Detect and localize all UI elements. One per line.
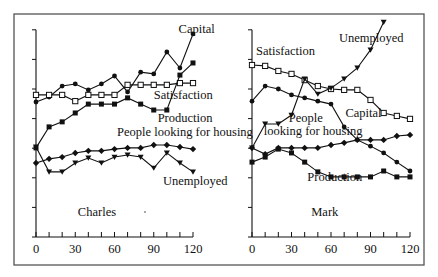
filled-diamond-marker xyxy=(33,160,39,166)
filled-circle-marker xyxy=(99,82,104,87)
filled-triangle-down-marker xyxy=(98,161,104,166)
filled-diamond-marker xyxy=(111,146,117,152)
x-tick-label: 120 xyxy=(184,242,203,256)
filled-square-marker xyxy=(112,102,117,107)
filled-square-marker xyxy=(138,102,143,107)
open-square-marker xyxy=(407,116,412,121)
filled-square-marker xyxy=(191,60,196,65)
filled-square-marker xyxy=(302,160,307,165)
label-people-looking-for-housing: People looking for housing xyxy=(117,125,254,139)
filled-square-marker xyxy=(408,174,413,179)
filled-circle-marker xyxy=(381,151,386,156)
filled-circle-marker xyxy=(138,70,143,75)
open-square-marker xyxy=(112,92,117,97)
filled-circle-marker xyxy=(164,50,169,55)
filled-triangle-down-marker xyxy=(315,92,321,97)
filled-diamond-marker xyxy=(328,142,334,148)
open-square-marker xyxy=(342,87,347,92)
x-tick-label: 30 xyxy=(285,242,298,256)
filled-diamond-marker xyxy=(407,132,413,138)
open-square-marker xyxy=(249,62,254,67)
filled-circle-marker xyxy=(302,95,307,100)
speck xyxy=(144,211,145,212)
filled-diamond-marker xyxy=(315,145,321,151)
filled-square-marker xyxy=(86,102,91,107)
filled-diamond-marker xyxy=(137,145,143,151)
label-capital: Capital xyxy=(179,22,216,36)
filled-square-marker xyxy=(151,108,156,113)
label-unemployed: Unemployed xyxy=(163,174,228,188)
label-satisfaction: Satisfaction xyxy=(256,44,316,58)
filled-square-marker xyxy=(394,174,399,179)
x-tick-label: 90 xyxy=(148,242,161,256)
open-square-marker xyxy=(60,92,65,97)
x-tick-label: 120 xyxy=(401,242,420,256)
open-square-marker xyxy=(190,80,195,85)
filled-circle-marker xyxy=(329,102,334,107)
x-tick-label: 30 xyxy=(69,242,82,256)
filled-square-marker xyxy=(289,150,294,155)
filled-diamond-marker xyxy=(177,144,183,150)
filled-square-marker xyxy=(250,160,255,165)
filled-square-marker xyxy=(381,168,386,173)
open-square-marker xyxy=(164,82,169,87)
x-tick-label: 90 xyxy=(364,242,377,256)
filled-circle-marker xyxy=(250,99,255,104)
open-square-marker xyxy=(46,92,51,97)
filled-circle-marker xyxy=(368,144,373,149)
filled-diamond-marker xyxy=(151,142,157,148)
filled-diamond-marker xyxy=(164,142,170,148)
series-satisfaction xyxy=(249,62,412,121)
label-looking-for-housing: looking for housing xyxy=(264,124,363,138)
label-production: Production xyxy=(307,170,363,184)
filled-square-marker xyxy=(263,155,268,160)
figure: 0306090120CapitalSatisfactionProductionP… xyxy=(0,0,438,277)
x-tick-label: 60 xyxy=(325,242,338,256)
filled-square-marker xyxy=(99,102,104,107)
filled-square-marker xyxy=(73,110,78,115)
x-tick-label: 60 xyxy=(108,242,121,256)
filled-diamond-marker xyxy=(367,137,373,143)
label-capital: Capital xyxy=(345,106,382,120)
filled-diamond-marker xyxy=(341,140,347,146)
filled-diamond-marker xyxy=(124,145,130,151)
filled-circle-marker xyxy=(315,99,320,104)
open-square-marker xyxy=(86,92,91,97)
open-square-marker xyxy=(289,71,294,76)
series-people-looking-for-housing xyxy=(33,142,196,166)
filled-circle-marker xyxy=(34,100,39,105)
filled-diamond-marker xyxy=(301,145,307,151)
x-tick-label: 0 xyxy=(33,242,39,256)
open-square-marker xyxy=(138,82,143,87)
open-square-marker xyxy=(263,63,268,68)
open-square-marker xyxy=(73,99,78,104)
filled-diamond-marker xyxy=(380,137,386,143)
filled-square-marker xyxy=(125,95,130,100)
open-square-marker xyxy=(276,68,281,73)
filled-circle-marker xyxy=(408,169,413,174)
filled-diamond-marker xyxy=(59,154,65,160)
filled-square-marker xyxy=(368,174,373,179)
open-square-marker xyxy=(33,92,38,97)
chart-panel-mark: 0306090120UnemployedSatisfactionPeoplelo… xyxy=(248,20,419,256)
filled-circle-marker xyxy=(60,84,65,89)
label-unemployed: Unemployed xyxy=(339,31,404,45)
x-tick-label: 0 xyxy=(249,242,255,256)
filled-circle-marker xyxy=(263,84,268,89)
filled-circle-marker xyxy=(73,82,78,87)
label-satisfaction: Satisfaction xyxy=(154,88,214,102)
filled-square-marker xyxy=(47,124,52,129)
filled-triangle-down-marker xyxy=(85,156,91,161)
open-square-marker xyxy=(394,113,399,118)
label-production: Production xyxy=(158,111,214,125)
filled-diamond-marker xyxy=(46,156,52,162)
chart-panel-charles: 0306090120CapitalSatisfactionProductionP… xyxy=(32,22,254,256)
filled-diamond-marker xyxy=(190,146,196,152)
filled-circle-marker xyxy=(394,160,399,165)
filled-triangle-down-marker xyxy=(381,20,387,25)
label-people: People xyxy=(289,111,323,125)
filled-diamond-marker xyxy=(394,133,400,139)
filled-circle-marker xyxy=(112,74,117,79)
filled-circle-marker xyxy=(289,93,294,98)
filled-diamond-marker xyxy=(72,150,78,156)
